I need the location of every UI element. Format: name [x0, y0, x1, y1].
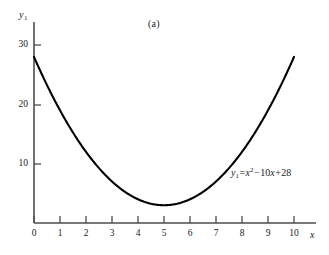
- x-tick-label-7: 7: [207, 228, 225, 238]
- x-tick-label-10: 10: [285, 228, 303, 238]
- equation-coefficient: 10: [260, 167, 270, 178]
- equation-lhs-subscript: 1: [235, 172, 239, 180]
- x-tick-label-3: 3: [103, 228, 121, 238]
- figure-panel-a: (a) y1 x 0 1: [0, 0, 329, 255]
- equation-exponent: 2: [250, 166, 254, 174]
- x-tick-label-2: 2: [77, 228, 95, 238]
- x-tick-label-4: 4: [129, 228, 147, 238]
- y-tick-label-30: 30: [6, 39, 28, 49]
- plot-area: [0, 0, 329, 255]
- y-tick-label-10: 10: [6, 158, 28, 168]
- equation-term-x2: x: [270, 167, 274, 178]
- x-tick-label-9: 9: [259, 228, 277, 238]
- x-axis-ticks: [34, 216, 294, 223]
- x-tick-label-0: 0: [25, 228, 43, 238]
- x-tick-label-5: 5: [155, 228, 173, 238]
- x-tick-label-6: 6: [181, 228, 199, 238]
- x-tick-label-8: 8: [233, 228, 251, 238]
- equation-constant: 28: [281, 167, 291, 178]
- curve-equation-annotation: y1=x2−10x+28: [231, 167, 291, 178]
- y-tick-label-20: 20: [6, 99, 28, 109]
- x-tick-label-1: 1: [51, 228, 69, 238]
- data-curve-y1: [34, 57, 294, 205]
- equation-equals: =: [239, 167, 246, 178]
